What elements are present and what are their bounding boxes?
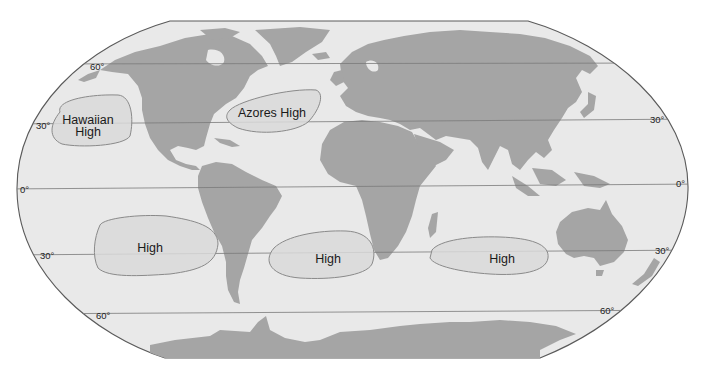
lat-label-60s-right: 60° — [600, 305, 615, 316]
lat-label-30n-right: 30° — [650, 114, 665, 125]
lat-label-60s-left: 60° — [96, 310, 111, 321]
lat-label-eq-left: 0° — [20, 184, 29, 195]
lat-label-eq-right: 0° — [676, 178, 685, 189]
south-pacific-high-label: High — [137, 241, 163, 255]
lat-label-30n-left: 30° — [36, 120, 51, 131]
lat-label-30s-left: 30° — [40, 250, 55, 261]
lat-label-30s-right: 30° — [655, 245, 670, 256]
hawaiian-high-label-line2: High — [75, 125, 101, 139]
south-atlantic-high-label: High — [315, 252, 341, 266]
lat-label-60n-left: 60° — [90, 61, 105, 72]
indian-ocean-high-label: High — [489, 252, 515, 266]
world-map: Hawaiian High Azores High High High High… — [0, 0, 703, 376]
azores-high-label: Azores High — [238, 106, 306, 120]
